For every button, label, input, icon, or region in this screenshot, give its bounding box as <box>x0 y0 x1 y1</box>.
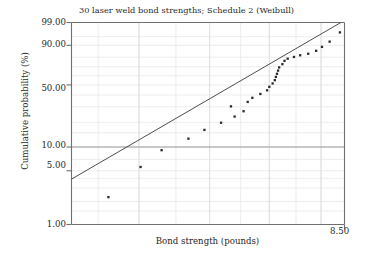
y-tick-label-90: 90.00 <box>28 39 66 49</box>
plot-frame <box>72 23 345 225</box>
data-point-marker <box>299 54 301 56</box>
data-point-marker <box>139 166 141 168</box>
y-tick-label-10: 10.00 <box>28 140 66 150</box>
data-point-marker <box>266 89 268 91</box>
data-point-marker <box>293 56 295 58</box>
data-point-marker <box>268 86 270 88</box>
data-point-marker <box>307 53 309 55</box>
y-axis-title: Cumulative probability (%) <box>20 26 30 196</box>
data-point-marker <box>271 82 273 84</box>
data-point-marker <box>259 93 261 95</box>
data-point-marker <box>276 73 278 75</box>
y-tick-label-5: 5.00 <box>28 160 66 170</box>
weibull-fit-line <box>72 23 341 180</box>
data-point-marker <box>187 138 189 140</box>
y-tick-label-99: 99.00 <box>28 17 66 27</box>
weibull-probability-chart: 30 laser weld bond strengths; Schedule 2… <box>0 0 373 264</box>
data-point-marker <box>281 63 283 65</box>
data-point-marker <box>315 50 317 52</box>
data-point-marker <box>160 149 162 151</box>
data-point-marker <box>242 110 244 112</box>
data-point-marker <box>107 196 109 198</box>
data-point-marker <box>220 122 222 124</box>
data-point-marker <box>230 105 232 107</box>
data-point-marker <box>233 115 235 117</box>
y-tick-label-50: 50.00 <box>28 83 66 93</box>
data-point-marker <box>275 76 277 78</box>
y-tick-label-1: 1.00 <box>28 219 66 229</box>
data-point-marker <box>287 58 289 60</box>
data-point-markers <box>107 31 341 198</box>
vertical-minor-gridlines <box>98 23 321 225</box>
data-point-marker <box>247 101 249 103</box>
data-point-marker <box>278 66 280 68</box>
axis-tick-marks <box>67 23 345 230</box>
data-point-marker <box>328 40 330 42</box>
horizontal-minor-gridlines <box>72 37 345 211</box>
data-point-marker <box>274 79 276 81</box>
data-point-marker <box>283 60 285 62</box>
data-point-marker <box>203 129 205 131</box>
data-point-marker <box>277 69 279 71</box>
data-point-marker <box>251 97 253 99</box>
x-tick-label-max: 8.50 <box>330 226 349 236</box>
data-point-marker <box>339 31 341 33</box>
data-point-marker <box>321 46 323 48</box>
x-axis-title: Bond strength (pounds) <box>71 236 344 246</box>
